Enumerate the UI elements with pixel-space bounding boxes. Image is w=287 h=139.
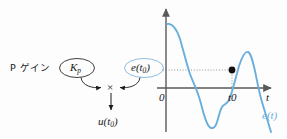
error-node-label: e(t0) — [131, 62, 150, 74]
error-node-symbol: e(t — [131, 61, 143, 73]
p-gain-label: P ゲイン — [10, 63, 51, 73]
gain-node-subscript: p — [77, 66, 81, 75]
error-signal-curve — [167, 24, 271, 132]
data-point-marker — [229, 67, 236, 74]
x-axis-label: t — [266, 92, 269, 103]
error-to-multiply-arrow — [120, 78, 140, 88]
multiply-symbol: × — [107, 82, 113, 93]
gain-to-multiply-arrow — [81, 78, 101, 88]
x-tick-t0-label: t0 — [228, 92, 237, 103]
output-symbol: u(t — [98, 115, 110, 127]
output-label: u(t0) — [98, 116, 118, 128]
curve-label: e(t) — [262, 110, 277, 121]
plot-origin-label: 0 — [159, 92, 165, 103]
x-tick-t0-subscript: 0 — [231, 91, 237, 103]
error-node-paren: ) — [146, 61, 150, 73]
diagram-canvas: P ゲイン Kp e(t0) × u(t0) 0 t0 t e(t) — [0, 0, 287, 139]
output-paren: ) — [114, 115, 118, 127]
gain-node-label: Kp — [70, 62, 81, 74]
